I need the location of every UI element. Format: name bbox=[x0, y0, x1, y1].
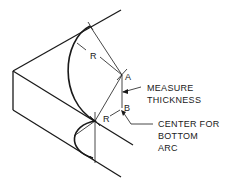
radius-label-bottom: R bbox=[103, 115, 110, 124]
radius-label-top: R bbox=[90, 52, 97, 61]
arc-profile bbox=[68, 26, 95, 158]
top-edge bbox=[13, 10, 121, 71]
point-b-label: B bbox=[124, 104, 130, 113]
point-a-label: A bbox=[125, 73, 131, 82]
measure-thickness-label: MEASURE THICKNESS bbox=[147, 84, 201, 105]
middle-edge bbox=[13, 71, 133, 145]
center-for-bottom-arc-label: CENTER FOR BOTTOM ARC bbox=[158, 120, 220, 153]
